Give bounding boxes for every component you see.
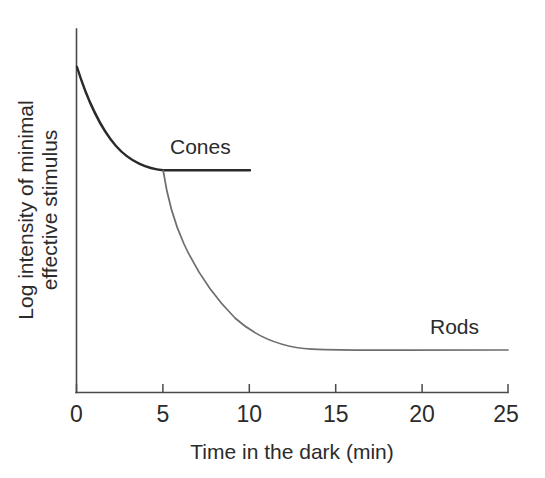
y-axis-title-line1: Log intensity of minimal: [14, 100, 37, 319]
x-tick-label-25: 25: [493, 401, 519, 427]
x-tick-label-0: 0: [70, 401, 83, 427]
x-tick-label-20: 20: [409, 401, 435, 427]
x-tick-label-10: 10: [237, 401, 263, 427]
series-label-rods: Rods: [430, 315, 479, 338]
series-label-cones: Cones: [170, 135, 231, 158]
dark-adaptation-chart: 0 5 10 15 20 25 Time in the dark (min) L…: [0, 0, 545, 478]
y-axis-title: Log intensity of minimal effective stimu…: [14, 100, 61, 319]
x-axis-ticks: [77, 384, 509, 393]
y-axis-title-line2: effective stimulus: [38, 130, 61, 291]
x-tick-label-5: 5: [157, 401, 170, 427]
x-axis-tick-labels: 0 5 10 15 20 25: [70, 401, 519, 427]
x-tick-label-15: 15: [323, 401, 349, 427]
x-axis-title: Time in the dark (min): [190, 440, 393, 463]
chart-canvas: 0 5 10 15 20 25 Time in the dark (min) L…: [0, 0, 545, 478]
